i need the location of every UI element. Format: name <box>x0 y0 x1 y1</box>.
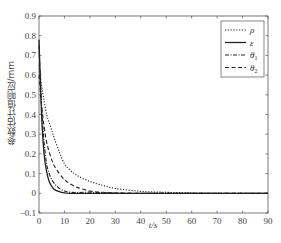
x-tick-label: 90 <box>264 216 274 226</box>
y-tick-label: 0.9 <box>25 11 37 21</box>
x-tick-label: 80 <box>238 216 248 226</box>
x-tick-label: 40 <box>136 216 146 226</box>
x-tick-label: 60 <box>187 216 197 226</box>
y-tick-label: 0.3 <box>25 129 37 139</box>
series-line-0 <box>39 65 268 193</box>
x-tick-label: 20 <box>85 216 95 226</box>
y-tick-label: 0.6 <box>25 70 37 80</box>
y-tick-label: 0.2 <box>25 149 36 159</box>
legend: ρεθ1θ2 <box>221 21 264 77</box>
x-axis-label: t/s <box>149 220 158 230</box>
legend-label: ε <box>250 38 254 48</box>
y-tick-label: 0.4 <box>25 110 37 120</box>
x-tick-label: 0 <box>37 216 42 226</box>
y-tick-label: 0.7 <box>25 50 37 60</box>
x-tick-label: 30 <box>111 216 121 226</box>
line-chart: 0102030405060708090−0.100.10.20.30.40.50… <box>0 0 281 243</box>
figure-caption <box>20 234 270 237</box>
x-tick-label: 50 <box>162 216 172 226</box>
y-tick-label: 0.1 <box>25 169 36 179</box>
y-tick-label: 0.8 <box>25 31 37 41</box>
legend-box <box>221 21 264 77</box>
y-tick-label: 0 <box>32 188 37 198</box>
x-tick-label: 70 <box>213 216 223 226</box>
y-tick-label: 0.5 <box>25 90 37 100</box>
series-line-3 <box>39 75 268 193</box>
legend-label: ρ <box>249 25 255 35</box>
y-tick-label: −0.1 <box>20 208 36 218</box>
x-tick-label: 10 <box>60 216 70 226</box>
